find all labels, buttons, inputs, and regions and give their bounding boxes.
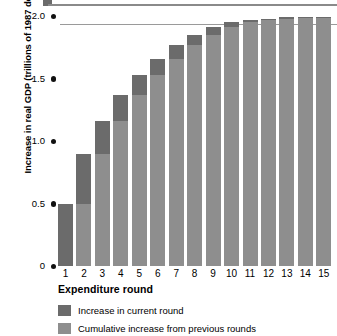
- bar-round-7: [169, 45, 184, 266]
- bar-segment-previous-rounds: [224, 27, 239, 266]
- y-tick-label: 1.5: [32, 74, 45, 84]
- y-tick-label: 0: [40, 261, 45, 271]
- x-axis-title: Expenditure round: [58, 283, 153, 295]
- bar-segment-previous-rounds: [187, 45, 202, 266]
- bar-round-13: [279, 17, 294, 266]
- bar-segment-current-round: [113, 95, 128, 121]
- bar-segment-current-round: [95, 121, 110, 154]
- bar-segment-previous-rounds: [95, 154, 110, 267]
- x-tick-label-3: 3: [93, 268, 111, 279]
- bar-round-5: [132, 75, 147, 266]
- y-tick-1-0: 1.0: [0, 136, 58, 146]
- x-tick-label-4: 4: [112, 268, 130, 279]
- bar-round-14: [298, 17, 313, 266]
- bar-segment-current-round: [279, 17, 294, 18]
- y-tick-label: 2.0: [32, 11, 45, 21]
- x-tick-label-6: 6: [149, 268, 167, 279]
- chart-legend: Increase in current round Cumulative inc…: [58, 303, 256, 336]
- bar-segment-previous-rounds: [150, 75, 165, 266]
- y-tick-dot-icon: [51, 14, 57, 20]
- bar-segment-previous-rounds: [169, 59, 184, 267]
- x-tick-label-2: 2: [75, 268, 93, 279]
- bar-segment-current-round: [58, 204, 73, 267]
- legend-swatch-current-round: [58, 305, 71, 316]
- y-tick-1-5: 1.5: [0, 74, 58, 84]
- bar-round-2: [76, 154, 91, 267]
- bar-segment-current-round: [169, 45, 184, 59]
- bar-segment-current-round: [243, 20, 258, 23]
- x-tick-label-8: 8: [186, 268, 204, 279]
- bar-round-1: [58, 204, 73, 267]
- y-tick-dot-icon: [51, 76, 57, 82]
- bar-segment-previous-rounds: [113, 121, 128, 266]
- bar-segment-current-round: [76, 154, 91, 204]
- bar-round-3: [95, 121, 110, 266]
- bar-segment-previous-rounds: [316, 17, 331, 266]
- x-tick-label-1: 1: [57, 268, 75, 279]
- x-tick-label-10: 10: [223, 268, 241, 279]
- legend-label-previous-rounds: Cumulative increase from previous rounds: [78, 323, 256, 334]
- bar-segment-current-round: [261, 19, 276, 20]
- x-tick-label-11: 11: [241, 268, 259, 279]
- y-tick-label: 0.5: [32, 199, 45, 209]
- bar-round-11: [243, 20, 258, 266]
- y-axis-title: Increase in real GDP (trillions of 1987 …: [22, 0, 33, 189]
- plot-area: [58, 16, 337, 266]
- bar-segment-current-round: [187, 35, 202, 45]
- bar-segment-current-round: [132, 75, 147, 95]
- y-tick-2-0: 2.0: [0, 11, 58, 21]
- x-tick-label-12: 12: [259, 268, 277, 279]
- y-tick-dot-icon: [51, 264, 57, 270]
- bar-segment-previous-rounds: [298, 17, 313, 266]
- bar-segment-previous-rounds: [279, 19, 294, 267]
- expenditure-multiplier-bar-chart: Increase in real GDP (trillions of 1987 …: [0, 0, 337, 336]
- bar-segment-previous-rounds: [76, 204, 91, 267]
- x-tick-label-9: 9: [204, 268, 222, 279]
- legend-label-current-round: Increase in current round: [78, 305, 184, 316]
- x-tick-label-15: 15: [315, 268, 333, 279]
- bar-round-4: [113, 95, 128, 266]
- bar-round-12: [261, 19, 276, 267]
- bar-segment-current-round: [150, 59, 165, 75]
- x-tick-label-7: 7: [167, 268, 185, 279]
- bar-round-15: [316, 17, 331, 266]
- bar-round-6: [150, 59, 165, 267]
- x-tick-label-14: 14: [296, 268, 314, 279]
- y-tick-dot-icon: [51, 139, 57, 145]
- x-tick-label-13: 13: [278, 268, 296, 279]
- bar-segment-current-round: [224, 22, 239, 27]
- y-tick-0: 0: [0, 261, 58, 271]
- y-tick-label: 1.0: [32, 136, 45, 146]
- bar-round-9: [206, 27, 221, 266]
- y-tick-0-5: 0.5: [0, 199, 58, 209]
- legend-item-previous-rounds: Cumulative increase from previous rounds: [58, 321, 256, 336]
- y-tick-dot-icon: [51, 201, 57, 207]
- x-tick-label-5: 5: [130, 268, 148, 279]
- legend-item-current-round: Increase in current round: [58, 303, 256, 318]
- bar-segment-previous-rounds: [206, 35, 221, 266]
- bar-segment-previous-rounds: [132, 95, 147, 266]
- bar-round-8: [187, 35, 202, 266]
- legend-swatch-previous-rounds: [58, 323, 71, 334]
- bar-segment-current-round: [206, 27, 221, 35]
- bar-round-10: [224, 22, 239, 266]
- bar-segment-previous-rounds: [243, 22, 258, 266]
- bar-segment-previous-rounds: [261, 20, 276, 266]
- bar-segment-current-round: [316, 17, 331, 18]
- bar-segment-current-round: [298, 17, 313, 18]
